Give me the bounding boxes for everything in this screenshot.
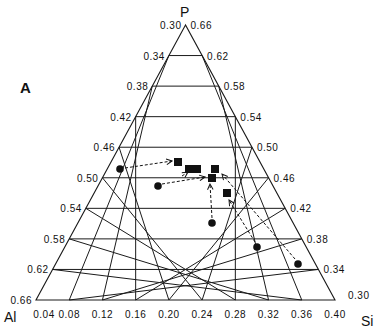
triangular-grid: [36, 25, 335, 300]
grid-line-right-parallel: [119, 147, 169, 300]
dashed-arrow: [210, 184, 212, 218]
panel-label: A: [20, 79, 31, 96]
vertex-label-al: Al: [4, 309, 16, 325]
left-tick-label: 0.30: [160, 20, 181, 31]
bottom-tick-label: 0.16: [125, 309, 146, 320]
left-tick-label: 0.46: [94, 142, 115, 153]
circle-marker: [253, 243, 261, 251]
ternary-diagram: A P Al Si 0.300.340.380.420.460.500.540.…: [0, 0, 377, 333]
left-tick-label: 0.34: [143, 51, 164, 62]
right-tick-label: 0.66: [191, 20, 212, 31]
right-tick-label: 0.62: [207, 51, 228, 62]
square-marker: [174, 158, 182, 166]
right-tick-label: 0.38: [307, 234, 328, 245]
left-tick-label: 0.62: [27, 264, 48, 275]
square-marker: [193, 165, 201, 173]
bottom-tick-label: 0.04: [33, 309, 54, 320]
bottom-tick-label: 0.40: [324, 309, 345, 320]
left-tick-label: 0.38: [127, 81, 148, 92]
circle-marker: [294, 260, 302, 268]
bottom-tick-label: 0.32: [258, 309, 279, 320]
triangle-outline: [36, 25, 335, 300]
left-tick-label: 0.58: [44, 234, 65, 245]
right-tick-label: 0.42: [290, 203, 311, 214]
ternary-plot: A P Al Si 0.300.340.380.420.460.500.540.…: [0, 0, 377, 333]
left-tick-label: 0.42: [110, 112, 131, 123]
dashed-arrow: [125, 161, 172, 168]
right-tick-label: 0.46: [274, 173, 295, 184]
bottom-tick-label: 0.24: [191, 309, 212, 320]
bottom-tick-label: 0.20: [158, 309, 179, 320]
circle-marker: [208, 219, 216, 227]
bottom-tick-label: 0.28: [225, 309, 246, 320]
bottom-tick-label: 0.12: [92, 309, 113, 320]
left-tick-label: 0.54: [60, 203, 81, 214]
square-marker: [223, 189, 231, 197]
circle-marker: [154, 182, 162, 190]
right-tick-label: 0.58: [224, 81, 245, 92]
square-marker: [185, 165, 193, 173]
vertex-label-p: P: [180, 4, 189, 20]
right-tick-label: 0.50: [257, 142, 278, 153]
vertex-label-si: Si: [361, 313, 373, 329]
right-tick-label: 0.30: [348, 290, 369, 301]
bottom-tick-label: 0.08: [58, 309, 79, 320]
bottom-tick-label: 0.36: [291, 309, 312, 320]
circle-marker: [116, 165, 124, 173]
right-tick-label: 0.54: [240, 112, 261, 123]
right-tick-label: 0.34: [323, 264, 344, 275]
left-tick-label: 0.66: [11, 295, 32, 306]
square-marker: [211, 165, 219, 173]
square-marker: [208, 174, 216, 182]
left-tick-label: 0.50: [77, 173, 98, 184]
